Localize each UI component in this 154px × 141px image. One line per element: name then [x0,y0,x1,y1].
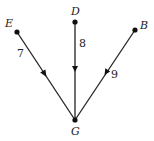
node-label-e: E [4,17,13,30]
arrow-d-g-icon [72,66,78,72]
node-g [72,117,77,122]
graph-diagram: E D B G 7 8 9 [0,0,154,141]
node-d [72,19,77,24]
node-label-g: G [71,125,80,138]
edge-weight-b-g: 9 [111,68,118,81]
node-b [132,27,137,32]
edge-weight-e-g: 7 [17,47,24,60]
node-e [14,29,19,34]
node-label-d: D [70,5,80,18]
arrow-e-g-icon [40,69,46,77]
node-label-b: B [139,19,148,32]
edge-weight-d-g: 8 [79,37,86,50]
